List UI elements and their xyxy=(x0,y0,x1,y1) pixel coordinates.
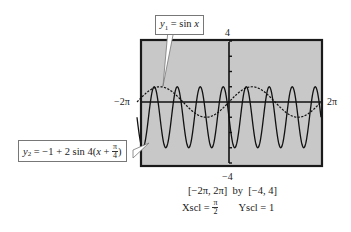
y2-rest: = −1 + 2 sin 4( xyxy=(31,146,96,157)
window-range-caption: [−2π, 2π] by [−4, 4] xyxy=(188,185,277,196)
yscl-label: Yscl = 1 xyxy=(238,202,274,213)
y2-close: ) xyxy=(118,146,122,157)
y-max-label: 4 xyxy=(225,28,230,38)
callout-y1: y1 = sin x xyxy=(155,15,204,35)
scale-caption: Xscl = π2 Yscl = 1 xyxy=(182,199,274,216)
xscl-den: 2 xyxy=(212,208,218,216)
callout-y2: y2 = −1 + 2 sin 4(x + π4) xyxy=(18,140,127,162)
xscl-fraction: π2 xyxy=(212,199,218,216)
y1-x: x xyxy=(194,18,199,29)
x-min-label: −2π xyxy=(114,97,130,107)
y-min-label: −4 xyxy=(222,172,233,182)
y1-rest: = sin xyxy=(168,18,194,29)
y2-plus: + xyxy=(101,146,112,157)
x-max-label: 2π xyxy=(327,97,337,107)
xscl-label: Xscl = xyxy=(182,202,212,213)
